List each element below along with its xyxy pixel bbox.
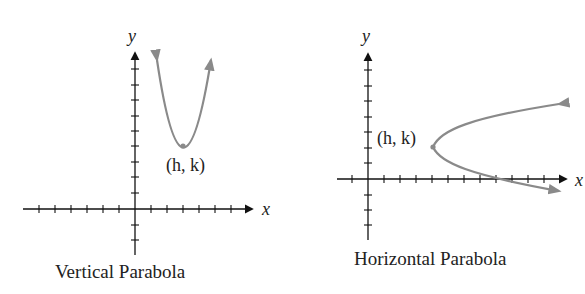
vertical-parabola-curve [157,60,211,148]
x-axis-label: x [574,170,583,190]
vertex-label: (h, k) [166,155,205,176]
vertex-point [180,143,185,148]
right-caption: Horizontal Parabola [354,248,506,270]
left-caption: Vertical Parabola [55,261,185,283]
vertex-label: (h, k) [377,128,416,149]
vertex-point [430,144,435,149]
y-axis-label: y [126,26,136,46]
horizontal-parabola-curve [433,104,559,191]
vertical-parabola-graph: y x (h, k) [23,26,270,255]
y-axis-label: y [360,26,370,46]
x-axis-label: x [261,199,270,219]
horizontal-parabola-graph: y x (h, k) [337,26,583,240]
